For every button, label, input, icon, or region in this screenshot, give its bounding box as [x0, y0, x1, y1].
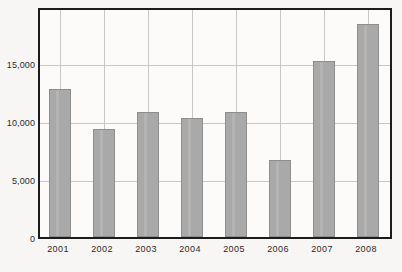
- x-axis-tick-2007: 2007: [311, 243, 333, 255]
- x-axis-tick-2003: 2003: [135, 243, 157, 255]
- bar-2008: [357, 24, 379, 237]
- x-axis-tick-2006: 2006: [267, 243, 289, 255]
- x-axis-labels: 2001 2002 2003 2004 2005 2006 2007 2008: [38, 243, 392, 259]
- y-axis-tick-0: 0: [0, 234, 35, 244]
- bar-chart: 15,000 10,000 5,000 0: [0, 0, 402, 272]
- y-axis-tick-10000: 10,000: [0, 118, 35, 128]
- x-axis-tick-2001: 2001: [47, 243, 69, 255]
- x-axis-tick-2004: 2004: [179, 243, 201, 255]
- bar-2001: [49, 89, 71, 237]
- x-axis-tick-2002: 2002: [91, 243, 113, 255]
- y-axis-labels: 15,000 10,000 5,000 0: [0, 0, 35, 272]
- bar-2006: [269, 160, 291, 237]
- plot-area: [38, 8, 392, 239]
- x-axis-tick-2005: 2005: [223, 243, 245, 255]
- x-axis-tick-2008: 2008: [355, 243, 377, 255]
- y-axis-tick-15000: 15,000: [0, 60, 35, 70]
- bars-layer: [40, 10, 390, 237]
- y-axis-tick-5000: 5,000: [0, 176, 35, 186]
- bar-2007: [313, 61, 335, 237]
- bar-2005: [225, 112, 247, 237]
- bar-2004: [181, 118, 203, 237]
- bar-2002: [93, 129, 115, 237]
- bar-2003: [137, 112, 159, 237]
